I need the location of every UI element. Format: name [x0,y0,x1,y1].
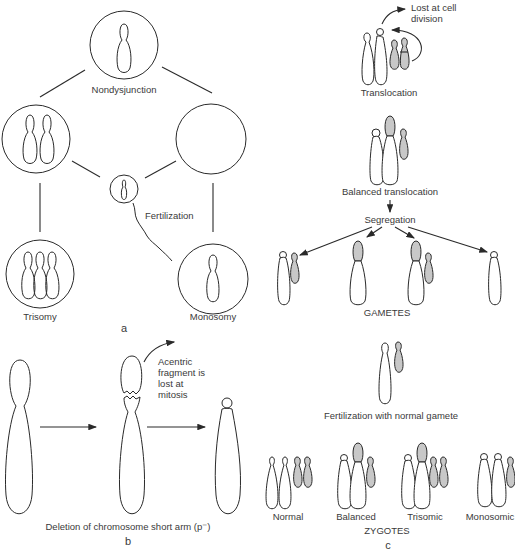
chromosome-translocated [390,40,399,69]
chromosome [379,343,391,404]
chromosome [492,459,506,507]
chromosome-deleted [215,408,240,514]
chromosome [34,252,47,299]
chromosome-translocated-arm [385,116,395,136]
zygotes-label: ZYGOTES [364,526,409,537]
zygote-label-trisomic: Trisomic [407,512,443,523]
chromosome-translocated [395,342,403,372]
chromosome-satellite [377,29,384,36]
chromosome [117,24,131,73]
zygote-balanced [338,443,375,509]
chromosome-translocated-arm [353,443,363,462]
deletion-caption: Deletion of chromosome short arm (p⁻) [46,522,211,533]
monosomy-label: Monosomy [190,312,236,323]
chromosome [266,457,278,509]
nondisjunction-label: Nondysjunction [92,85,157,96]
panel-a [2,11,248,314]
lost-label-line2: division [411,14,443,25]
zygote-label-monosomic: Monosomic [466,512,515,523]
chromosome [350,462,366,509]
fertilization-label: Fertilization [145,211,194,222]
chromosome-translocated [400,38,409,69]
acentric-label-line4: mitosis [158,390,188,401]
chromosome [350,261,366,305]
chromosome-translocated [440,457,448,487]
zygote-monosomic [478,454,515,507]
panel-a-label: a [121,322,127,335]
connector-line [72,161,100,177]
zygote-trisomy [6,240,74,308]
chromosome [414,462,430,509]
fertilization-normal-gamete-label: Fertilization with normal gamete [324,411,458,422]
segregation-label: Segregation [364,215,415,226]
panel-c-label: c [385,539,391,552]
chromosome-translocated-arm [353,241,363,261]
chromosome [382,136,398,185]
chromosome-translocated [400,129,408,159]
chromosome-satellite [372,129,380,137]
chromosome-translocated-arm [411,241,421,261]
gametes-label: GAMETES [364,308,410,319]
chromosome [40,115,54,164]
chromosome-translocated [430,457,438,487]
chromosome [207,255,219,302]
chromosome [121,180,126,200]
centric-chromosome [119,396,144,514]
chromosome [46,252,59,299]
sperm-cell [110,175,138,203]
connector-line [145,161,176,178]
chromosome-translocated [294,457,302,487]
chromosome [23,115,37,164]
chromosome-normal [5,360,32,514]
trisomy-label: Trisomy [23,312,56,323]
chromosome-satellite [222,398,232,408]
chromosome [408,261,424,305]
zygote-label-normal: Normal [273,512,304,523]
acentric-fragment [121,356,142,394]
segregation-arrow [395,227,414,238]
zygote-normal [266,457,312,509]
panel-b-label: b [125,535,131,548]
chromosome-translocated [507,457,515,487]
loss-arrow [382,9,405,24]
chromosome-translocated-arm [417,443,427,462]
chromosome [279,457,291,509]
panel-c [266,9,515,509]
chromosome [362,33,374,85]
connector-line [162,67,212,93]
chromosome [375,36,387,85]
gamete-cell-nullisomic [176,104,246,174]
connector-line [40,70,85,97]
chromosome-translocated [291,253,299,283]
zygote-trisomic [402,443,448,509]
chromosome [22,252,35,299]
chromosome [489,257,501,305]
panel-b [5,342,240,514]
chromosome-translocated [367,457,375,487]
balanced-translocation-label: Balanced translocation [342,187,438,198]
chromosome-translocated [425,253,433,283]
chromosome-translocated [304,457,312,487]
gamete-cell-disomic [2,105,70,173]
translocation-label: Translocation [361,88,418,99]
chromosome [278,257,290,305]
parent-cell [90,11,158,79]
chromosome [478,459,492,507]
zygote-label-balanced: Balanced [336,512,376,523]
